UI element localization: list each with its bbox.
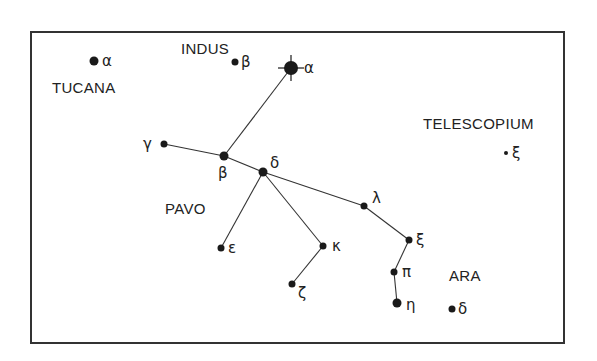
star-label: ζ <box>298 284 306 302</box>
constellation-lines <box>164 68 409 303</box>
star-pav-delta: δ <box>259 154 280 177</box>
constellation-label-ara: ARA <box>449 267 481 284</box>
constellation-line-pav-delta-pav-epsilon <box>221 172 263 248</box>
constellation-line-pav-alpha-pav-beta <box>224 68 291 156</box>
star-pav-epsilon: ε <box>218 239 237 257</box>
star-dot <box>90 57 99 66</box>
constellation-line-pav-delta-pav-kappa <box>263 172 323 246</box>
star-dot <box>406 237 413 244</box>
star-label: δ <box>270 154 279 172</box>
star-tel-xi: ξ <box>504 144 520 162</box>
star-dot <box>504 151 508 155</box>
constellation-line-pav-delta-pav-lambda <box>263 172 364 206</box>
star-dot <box>391 269 398 276</box>
star-dot <box>449 306 456 313</box>
star-chart: αβαγβδεκζλξπηδξ TUCANA INDUS TELESCOPIUM… <box>0 0 597 361</box>
constellation-label-telescopium: TELESCOPIUM <box>423 115 534 132</box>
star-ind-beta: β <box>232 53 251 71</box>
constellation-label-pavo: PAVO <box>165 200 206 217</box>
constellation-line-pav-kappa-pav-zeta <box>292 246 323 284</box>
star-pav-gamma: γ <box>143 135 168 153</box>
constellation-label-tucana: TUCANA <box>52 79 115 96</box>
star-dot <box>320 243 327 250</box>
star-pav-eta: η <box>393 296 416 314</box>
star-dot <box>284 61 298 75</box>
star-dot <box>361 203 368 210</box>
star-pav-beta: β <box>218 152 229 183</box>
constellation-line-pav-beta-pav-delta <box>224 156 263 172</box>
star-label: ξ <box>512 144 520 162</box>
star-label: ξ <box>416 231 424 249</box>
constellation-line-pav-lambda-pav-xi <box>364 206 409 240</box>
star-label: β <box>218 164 228 182</box>
star-dot <box>220 152 229 161</box>
star-dot <box>218 245 225 252</box>
star-label: α <box>102 52 112 70</box>
constellation-line-pav-gamma-pav-beta <box>164 144 224 156</box>
star-dot <box>393 299 402 308</box>
star-label: δ <box>458 300 467 318</box>
star-label: ε <box>228 239 236 257</box>
star-dot <box>232 59 239 66</box>
star-label: κ <box>332 237 341 255</box>
star-label: π <box>402 263 411 281</box>
star-label: η <box>406 296 416 314</box>
star-label: α <box>304 59 314 77</box>
star-label: γ <box>143 135 152 153</box>
star-tuc-alpha: α <box>90 52 113 70</box>
star-label: β <box>241 53 251 71</box>
constellation-label-indus: INDUS <box>181 40 229 57</box>
star-ara-delta: δ <box>449 300 468 318</box>
constellation-line-pav-pi-pav-eta <box>394 272 397 303</box>
star-pav-xi: ξ <box>406 231 425 249</box>
star-pav-pi: π <box>391 263 412 281</box>
star-pav-kappa: κ <box>320 237 342 255</box>
star-pav-lambda: λ <box>361 189 382 210</box>
star-label: λ <box>372 189 381 207</box>
star-dot <box>289 281 296 288</box>
star-dot <box>161 141 168 148</box>
star-pav-zeta: ζ <box>289 281 307 303</box>
star-dot <box>259 168 268 177</box>
